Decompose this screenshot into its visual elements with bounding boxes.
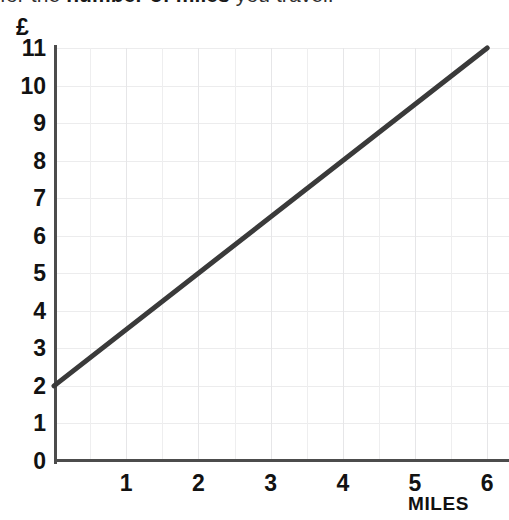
gridline-vertical [235, 48, 236, 461]
gridline-horizontal [54, 386, 509, 387]
caption-emphasis: number of miles [66, 0, 230, 6]
y-tick-label: 2 [0, 375, 46, 398]
y-tick-label: 1 [0, 412, 46, 435]
gridline-horizontal [54, 423, 509, 424]
gridline-horizontal [54, 273, 509, 274]
caption-text: for the number of miles you travel. [0, 0, 509, 9]
y-tick-label: 4 [0, 300, 46, 323]
caption-suffix: you travel. [230, 0, 334, 6]
gridline-vertical [126, 48, 127, 461]
x-axis-line [54, 459, 509, 462]
gridline-horizontal [54, 348, 509, 349]
x-tick-label: 4 [323, 472, 363, 495]
gridline-horizontal [54, 123, 509, 124]
gridline-vertical [415, 48, 416, 461]
gridline-vertical [487, 48, 488, 461]
y-tick-label: 6 [0, 225, 46, 248]
x-tick-label: 6 [467, 472, 507, 495]
y-tick-label: 10 [0, 75, 46, 98]
gridline-horizontal [54, 311, 509, 312]
gridline-vertical [162, 48, 163, 461]
x-tick-label: 5 [395, 472, 435, 495]
y-tick-label: 5 [0, 262, 46, 285]
x-axis-title: MILES [408, 494, 469, 513]
gridline-horizontal [54, 48, 509, 49]
gridline-horizontal [54, 161, 509, 162]
y-tick-label: 8 [0, 150, 46, 173]
gridline-horizontal [54, 198, 509, 199]
x-tick-label: 1 [106, 472, 146, 495]
gridline-vertical [343, 48, 344, 461]
y-tick-label: 0 [0, 450, 46, 473]
y-tick-label: 9 [0, 112, 46, 135]
plot-area [54, 48, 509, 461]
y-tick-label: 3 [0, 337, 46, 360]
gridline-vertical [307, 48, 308, 461]
gridline-horizontal [54, 86, 509, 87]
gridline-vertical [379, 48, 380, 461]
gridline-vertical [198, 48, 199, 461]
gridline-horizontal [54, 236, 509, 237]
x-tick-label: 3 [251, 472, 291, 495]
caption-prefix: for the [0, 0, 66, 6]
x-tick-label: 2 [178, 472, 218, 495]
y-tick-label: 7 [0, 187, 46, 210]
chart-page: for the number of miles you travel. £ 01… [0, 0, 509, 520]
y-axis-line [54, 45, 57, 464]
gridline-vertical [451, 48, 452, 461]
y-tick-label: 11 [0, 37, 46, 60]
gridline-vertical [271, 48, 272, 461]
gridline-vertical [90, 48, 91, 461]
